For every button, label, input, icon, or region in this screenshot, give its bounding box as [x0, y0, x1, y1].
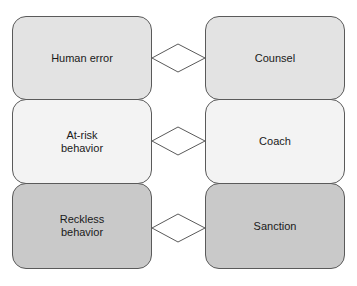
diamond-connector-icon: [152, 214, 205, 242]
connector-layer: [0, 0, 357, 286]
diamond-connector-icon: [152, 44, 205, 72]
diamond-connector-icon: [152, 127, 205, 155]
